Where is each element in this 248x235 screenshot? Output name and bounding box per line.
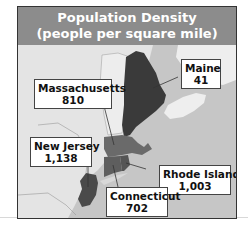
map-title-line1: Population Density [18, 10, 236, 26]
callout-massachusetts-value: 810 [38, 94, 108, 106]
callout-connecticut-value: 702 [110, 202, 164, 214]
callout-new-jersey: New Jersey 1,138 [30, 137, 92, 167]
callout-maine-name: Maine [185, 62, 217, 74]
map-figure: Population Density (people per square mi… [17, 6, 237, 219]
callout-maine-value: 41 [185, 74, 217, 86]
map-title-line2: (people per square mile) [18, 26, 236, 42]
map-title: Population Density (people per square mi… [18, 7, 236, 45]
callout-new-jersey-name: New Jersey [34, 140, 88, 152]
callout-connecticut-name: Connecticut [110, 190, 164, 202]
callout-rhode-island-name: Rhode Island [163, 168, 227, 180]
callout-maine: Maine 41 [181, 59, 221, 89]
callout-massachusetts: Massachusetts 810 [34, 79, 112, 109]
callout-connecticut: Connecticut 702 [106, 187, 168, 217]
callout-new-jersey-value: 1,138 [34, 152, 88, 164]
callout-massachusetts-name: Massachusetts [38, 82, 108, 94]
